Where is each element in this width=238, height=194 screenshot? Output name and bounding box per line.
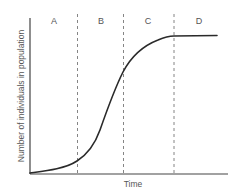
y-axis-label: Number of individuals in population <box>16 30 26 163</box>
phase-label-b: B <box>98 16 104 26</box>
phase-label-d: D <box>196 16 203 26</box>
phase-label-c: C <box>145 16 152 26</box>
x-axis-label: Time <box>124 179 143 189</box>
phase-label-a: A <box>51 16 57 26</box>
logistic-growth-chart: A B C D Time Number of individuals in po… <box>0 0 238 194</box>
